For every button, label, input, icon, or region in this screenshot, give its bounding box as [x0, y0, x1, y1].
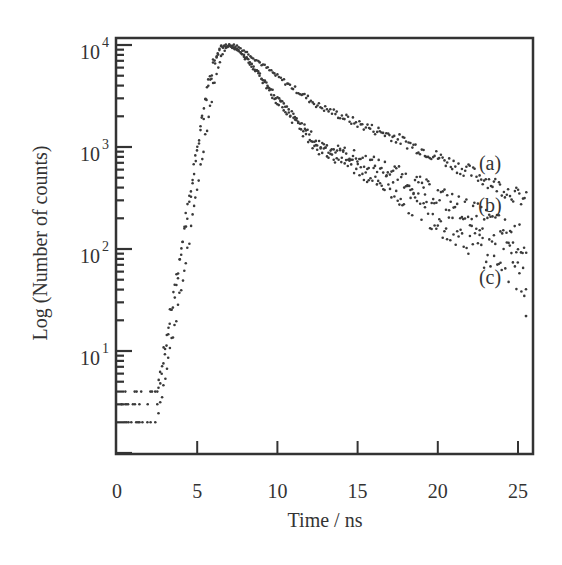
data-point — [336, 149, 339, 152]
data-point — [457, 162, 460, 165]
data-point — [367, 167, 370, 170]
data-point — [324, 147, 327, 150]
data-point — [190, 225, 193, 228]
data-point — [512, 261, 515, 264]
data-point — [369, 127, 372, 130]
data-point — [202, 151, 205, 154]
data-point — [249, 63, 252, 66]
data-point — [435, 150, 438, 153]
data-point — [474, 232, 477, 235]
data-point — [452, 160, 455, 163]
data-point — [308, 133, 311, 136]
data-point — [382, 132, 385, 135]
data-point — [517, 261, 520, 264]
data-point — [417, 181, 420, 184]
data-point — [461, 232, 464, 235]
data-point — [241, 53, 244, 56]
data-point — [149, 421, 152, 424]
data-point — [302, 135, 305, 138]
data-point — [323, 143, 326, 146]
data-point — [193, 205, 196, 208]
data-point — [124, 390, 127, 393]
data-point — [186, 203, 189, 206]
data-point — [470, 225, 473, 228]
data-point — [127, 421, 130, 424]
data-point — [343, 147, 346, 150]
data-point — [206, 86, 209, 89]
data-point — [342, 151, 345, 154]
data-point — [363, 179, 366, 182]
data-point — [281, 106, 284, 109]
data-point — [488, 178, 491, 181]
y-tick-exponent: 1 — [102, 341, 109, 356]
data-point — [332, 158, 335, 161]
data-point — [486, 217, 489, 220]
data-point — [331, 153, 334, 156]
y-tick-label: 10 — [80, 245, 100, 267]
data-point — [167, 357, 170, 360]
data-point — [411, 188, 414, 191]
data-point — [211, 74, 214, 77]
data-point — [204, 98, 207, 101]
data-point — [452, 233, 455, 236]
data-point — [210, 78, 213, 81]
data-point — [456, 172, 459, 175]
data-point — [424, 206, 427, 209]
data-point — [207, 116, 210, 119]
data-point — [456, 230, 459, 233]
data-point — [356, 160, 359, 163]
data-point — [409, 142, 412, 145]
data-point — [166, 367, 169, 370]
data-point — [190, 190, 193, 193]
data-point — [496, 190, 499, 193]
data-point — [412, 193, 415, 196]
data-point — [462, 175, 465, 178]
data-point — [361, 123, 364, 126]
data-point — [449, 200, 452, 203]
data-point — [329, 108, 332, 111]
y-tick-label: 10 — [80, 143, 100, 165]
data-point — [167, 326, 170, 329]
data-point — [493, 234, 496, 237]
data-point — [419, 175, 422, 178]
data-point — [352, 155, 355, 158]
data-point — [170, 309, 173, 312]
data-point — [319, 147, 322, 150]
data-point — [518, 272, 521, 275]
data-point — [287, 108, 290, 111]
data-point — [405, 172, 408, 175]
data-point — [427, 212, 430, 215]
data-point — [243, 56, 246, 59]
data-point — [273, 72, 276, 75]
data-point — [256, 69, 259, 72]
data-point — [252, 57, 255, 60]
data-point — [209, 105, 212, 108]
data-point — [135, 390, 138, 393]
data-point — [481, 237, 484, 240]
data-point — [191, 179, 194, 182]
data-point — [435, 227, 438, 230]
data-point — [270, 69, 273, 72]
data-point — [326, 108, 329, 111]
data-point — [273, 94, 276, 97]
data-point — [494, 216, 497, 219]
y-tick-exponent: 3 — [102, 137, 109, 152]
data-point — [273, 98, 276, 101]
data-point — [341, 114, 344, 117]
data-point — [164, 353, 167, 356]
data-point — [289, 115, 292, 118]
data-point — [315, 140, 318, 143]
data-point — [415, 176, 418, 179]
data-point — [377, 180, 380, 183]
data-point — [518, 223, 521, 226]
data-point — [488, 238, 491, 241]
data-point — [376, 183, 379, 186]
data-point — [174, 296, 177, 299]
data-point — [438, 199, 441, 202]
data-point — [294, 85, 297, 88]
data-point — [363, 165, 366, 168]
data-point — [449, 239, 452, 242]
x-axis-ticks — [197, 441, 518, 454]
data-point — [278, 104, 281, 107]
data-point — [393, 195, 396, 198]
